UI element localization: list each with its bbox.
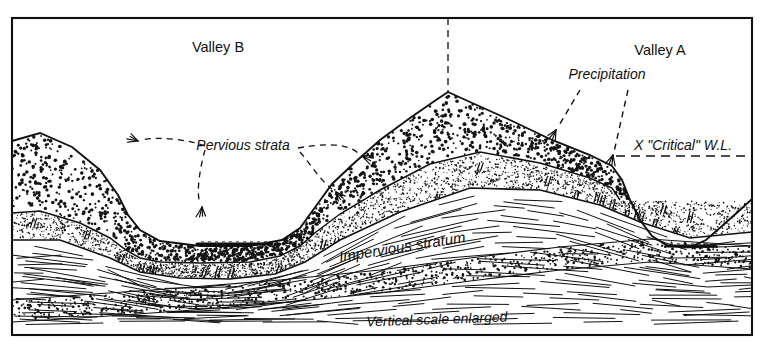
- label-pervious-strata: Pervious strata: [196, 137, 290, 153]
- label-valley-a: Valley A: [634, 42, 686, 58]
- label-precipitation: Precipitation: [568, 66, 645, 82]
- section-drawing: Valley B Valley A Precipitation Pervious…: [0, 0, 775, 353]
- label-valley-b: Valley B: [192, 39, 244, 55]
- label-critical-water-level: X "Critical" W.L.: [633, 137, 732, 153]
- geologic-section-figure: Valley B Valley A Precipitation Pervious…: [0, 0, 775, 353]
